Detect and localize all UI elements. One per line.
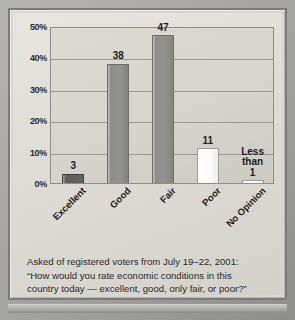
x-axis-label-fair: Fair (158, 185, 178, 205)
bar-poor (197, 148, 219, 183)
frame-bottom-bevel (8, 304, 287, 313)
chart-paper: 0%10%20%30%40%50% 3384711Lessthan1 Excel… (13, 13, 282, 295)
bar-value-label: 11 (188, 136, 228, 147)
plot-box: 3384711Lessthan1 (50, 27, 274, 184)
chart-caption: Asked of registered voters from July 19–… (27, 255, 277, 296)
y-axis-tick: 10% (30, 148, 47, 158)
bar-fair (152, 35, 174, 183)
bar-value-label: 3 (53, 161, 93, 172)
x-axis-label-no-opinion: No Opinion (223, 185, 267, 229)
caption-line-1: Asked of registered voters from July 19–… (27, 255, 277, 269)
image-frame: 0%10%20%30%40%50% 3384711Lessthan1 Excel… (0, 0, 295, 320)
bar-value-label: 47 (143, 23, 183, 34)
bar-excellent (62, 174, 84, 183)
caption-line-3: country today — excellent, good, only fa… (27, 282, 277, 296)
x-axis-label-excellent: Excellent (51, 185, 88, 222)
bar-value-label: 38 (98, 51, 138, 62)
bar-value-label: Lessthan1 (233, 147, 273, 179)
x-axis-label-good: Good (108, 185, 133, 210)
caption-line-2: “How would you rate economic conditions … (27, 269, 277, 283)
y-axis-tick: 40% (30, 53, 47, 63)
y-axis-labels: 0%10%20%30%40%50% (13, 13, 49, 183)
bar-good (107, 64, 129, 183)
y-axis-tick: 20% (30, 116, 47, 126)
y-axis-tick: 0% (35, 179, 47, 189)
chart-card: 0%10%20%30%40%50% 3384711Lessthan1 Excel… (8, 8, 287, 300)
x-axis-label-poor: Poor (199, 185, 222, 208)
x-axis-labels: ExcellentGoodFairPoorNo Opinion (50, 185, 274, 247)
bar-no-opinion (242, 180, 264, 183)
y-axis-tick: 50% (30, 22, 47, 32)
chart-plot-area: 0%10%20%30%40%50% 3384711Lessthan1 (13, 13, 286, 203)
y-axis-tick: 30% (30, 85, 47, 95)
